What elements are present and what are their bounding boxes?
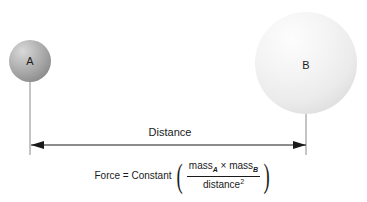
mass-a-base: mass (189, 160, 213, 171)
formula-fraction: massA × massB distance2 (186, 160, 261, 192)
formula-left-hand-side: Force = Constant (95, 170, 175, 181)
mass-b-subscript: B (253, 166, 258, 173)
sphere-a-label: A (22, 56, 38, 67)
distance-base: distance (203, 179, 240, 190)
distance-arrowhead-right (293, 141, 306, 149)
formula-denominator: distance2 (201, 177, 246, 192)
distance-exponent: 2 (240, 178, 244, 185)
formula-numerator: massA × massB (187, 160, 260, 176)
sphere-b-label: B (298, 60, 314, 71)
physics-diagram: A B Distance Force = Constant ( massA × … (0, 0, 367, 202)
distance-label: Distance (118, 127, 222, 138)
formula-paren-right: ) (264, 161, 270, 190)
mass-b-base: mass (229, 160, 253, 171)
force-formula: Force = Constant ( massA × massB distanc… (0, 160, 367, 192)
distance-arrowhead-left (31, 141, 44, 149)
formula-paren-left: ( (177, 161, 183, 190)
